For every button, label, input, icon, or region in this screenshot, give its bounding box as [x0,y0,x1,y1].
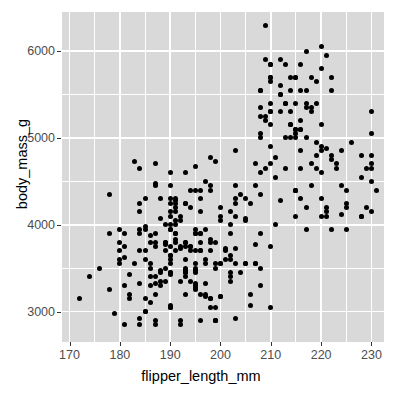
data-point [369,109,374,114]
data-point [324,214,329,219]
data-point [314,140,319,145]
data-point [137,166,142,171]
data-point [339,183,344,188]
data-point [213,266,218,271]
data-point [173,222,178,227]
data-point [324,205,329,210]
data-point [203,227,208,232]
data-point [233,214,238,219]
data-point [168,261,173,266]
data-point [168,209,173,214]
data-point [127,296,132,301]
data-point [198,196,203,201]
data-point [188,279,193,284]
data-point [248,303,253,308]
data-point [203,179,208,184]
data-point [143,309,148,314]
data-point [163,266,168,271]
data-point [309,161,314,166]
data-point [117,227,122,232]
data-point [349,140,354,145]
data-point [148,283,153,288]
data-point [298,62,303,67]
data-point [243,196,248,201]
data-point [243,261,248,266]
data-point [304,88,309,93]
data-point [198,231,203,236]
data-point [258,266,263,271]
data-point [137,227,142,232]
x-tick-mark [321,342,322,346]
data-point [253,161,258,166]
data-point [148,233,153,238]
data-point [263,114,268,119]
x-tick-label: 220 [311,348,332,362]
data-point [258,192,263,197]
data-point [228,231,233,236]
data-point [268,79,273,84]
data-point [273,175,278,180]
data-point [268,109,273,114]
data-point [319,214,324,219]
x-tick-mark [120,342,121,346]
data-point [359,153,364,158]
data-point [273,155,278,160]
data-point [198,209,203,214]
data-point [193,164,198,169]
data-point [369,166,374,171]
data-point [283,101,288,106]
data-point [283,166,288,171]
data-point [168,170,173,175]
data-point [314,153,319,158]
x-tick-mark [371,342,372,346]
y-tick-mark [57,51,61,52]
data-point [253,183,258,188]
data-point [228,279,233,284]
data-point [339,148,344,153]
data-point [137,248,142,253]
data-point [163,242,168,247]
data-point [143,257,148,262]
data-point [188,188,193,193]
data-point [218,205,223,210]
data-point [304,135,309,140]
data-point [309,183,314,188]
data-point [238,270,243,275]
data-point [233,316,238,321]
x-tick-label: 210 [260,348,281,362]
data-point [288,109,293,114]
data-point [213,240,218,245]
x-tick-label: 180 [109,348,130,362]
data-point [319,170,324,175]
data-point [137,209,142,214]
y-tick-label: 5000 [27,131,55,145]
data-point [324,53,329,58]
data-point [198,240,203,245]
data-point [122,322,127,327]
data-point [153,281,158,286]
data-point [168,222,173,227]
data-point [344,201,349,206]
data-point [208,183,213,188]
data-point [233,183,238,188]
data-point [168,214,173,219]
data-point [344,205,349,210]
data-point [268,244,273,249]
data-point [268,122,273,127]
data-point [173,205,178,210]
data-point [228,209,233,214]
data-point [364,205,369,210]
data-point [233,148,238,153]
data-point [193,283,198,288]
data-point [223,257,228,262]
data-point [163,279,168,284]
data-point [193,188,198,193]
data-point [153,181,158,186]
data-point [213,159,218,164]
data-point [278,57,283,62]
data-point [122,283,127,288]
x-tick-label: 200 [210,348,231,362]
data-point [298,196,303,201]
data-point [158,270,163,275]
data-point [263,57,268,62]
